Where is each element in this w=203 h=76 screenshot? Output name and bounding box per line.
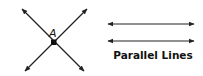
parallel-lines-caption: Parallel Lines xyxy=(113,49,192,61)
parallel-lines-figure: Parallel Lines xyxy=(108,24,194,61)
intersecting-lines-figure: A xyxy=(22,9,87,71)
intersection-point xyxy=(51,40,57,46)
geometry-diagram: A Parallel Lines xyxy=(0,0,203,76)
point-label-a: A xyxy=(48,27,57,40)
